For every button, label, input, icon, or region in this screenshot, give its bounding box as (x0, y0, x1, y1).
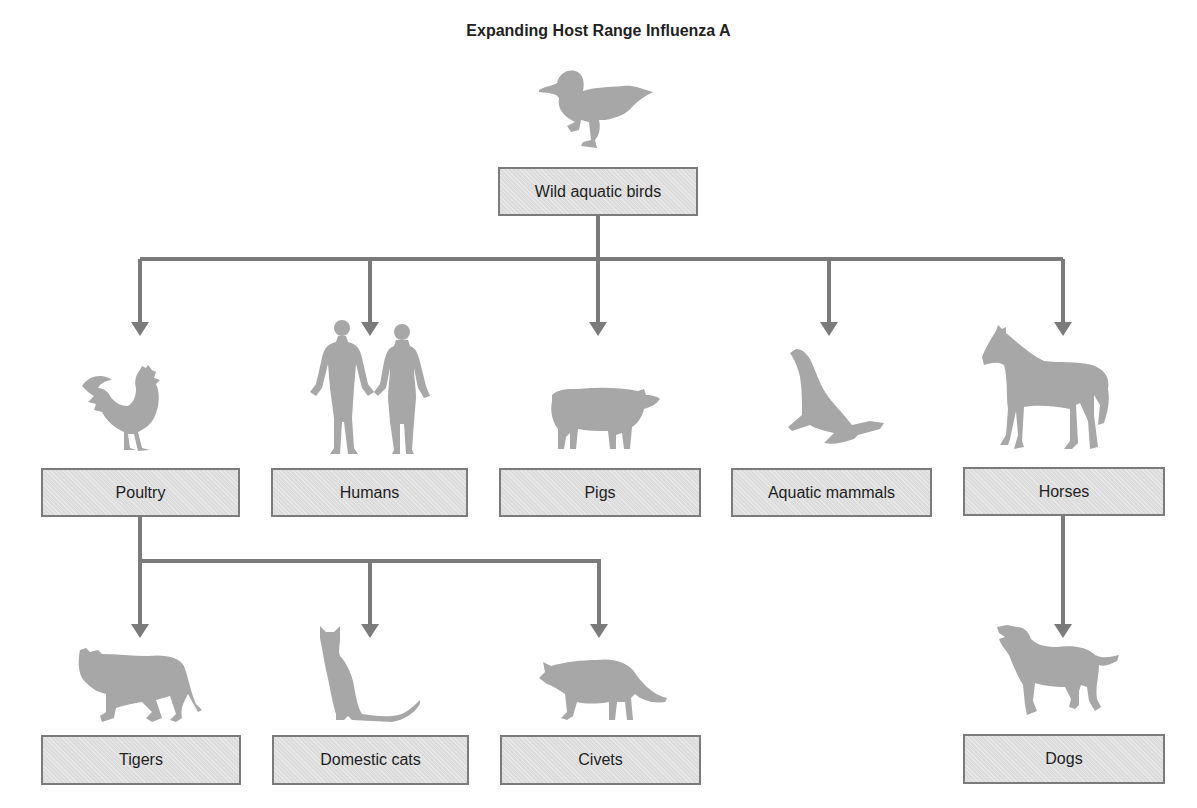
civet-icon (537, 656, 669, 724)
node-dogs: Dogs (963, 734, 1165, 784)
node-label: Tigers (119, 751, 163, 769)
node-label: Domestic cats (320, 751, 420, 769)
node-label: Pigs (584, 484, 615, 502)
horse-branch-arrow (1054, 516, 1072, 638)
poultry-branch-arrows (131, 517, 608, 638)
node-label: Wild aquatic birds (535, 183, 661, 201)
node-aquatic-mammals: Aquatic mammals (731, 468, 932, 517)
node-pigs: Pigs (499, 468, 701, 517)
duck-icon (535, 66, 660, 156)
tiger-icon (76, 646, 214, 724)
node-civets: Civets (500, 735, 701, 785)
sea-lion-icon (786, 347, 886, 447)
cat-icon (318, 624, 422, 722)
pig-icon (548, 387, 662, 453)
node-domestic-cats: Domestic cats (272, 735, 469, 785)
node-horses: Horses (963, 467, 1165, 516)
node-tigers: Tigers (41, 735, 241, 785)
rooster-icon (80, 362, 170, 454)
node-wild-aquatic-birds: Wild aquatic birds (498, 167, 698, 216)
node-label: Poultry (116, 484, 166, 502)
node-label: Civets (578, 751, 622, 769)
horse-icon (980, 325, 1120, 453)
node-poultry: Poultry (41, 468, 240, 517)
level1-arrows (131, 259, 1072, 336)
node-humans: Humans (271, 468, 468, 517)
human-couple-icon (308, 318, 432, 458)
node-label: Horses (1039, 483, 1090, 501)
dog-icon (995, 623, 1121, 721)
node-label: Aquatic mammals (768, 484, 895, 502)
node-label: Humans (340, 484, 400, 502)
node-label: Dogs (1045, 750, 1082, 768)
